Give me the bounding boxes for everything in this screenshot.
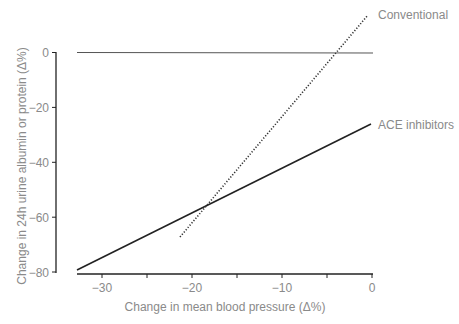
x-tick-label: −20 — [182, 281, 203, 295]
x-axis: −30 −20 −10 0 Change in mean blood press… — [77, 274, 376, 314]
x-tick-label: −10 — [272, 281, 293, 295]
conventional-line — [180, 15, 368, 237]
y-axis: 0 −20 −40 −60 −80 Change in 24h urine al… — [15, 46, 56, 285]
chart: 0 −20 −40 −60 −80 Change in 24h urine al… — [0, 0, 459, 324]
x-axis-label: Change in mean blood pressure (Δ%) — [125, 300, 326, 314]
zero-reference-line — [77, 53, 373, 54]
y-axis-label: Change in 24h urine albumin or protein (… — [15, 47, 29, 284]
y-tick-label: −40 — [29, 156, 50, 170]
ace-inhibitors-line — [77, 124, 371, 270]
y-tick-label: 0 — [42, 46, 49, 60]
ace-inhibitors-label: ACE inhibitors — [378, 118, 454, 132]
y-tick-label: −20 — [29, 101, 50, 115]
x-tick-label: 0 — [369, 281, 376, 295]
y-tick-label: −60 — [29, 211, 50, 225]
conventional-label: Conventional — [378, 8, 448, 22]
x-tick-label: −30 — [92, 281, 113, 295]
y-tick-label: −80 — [29, 266, 50, 280]
